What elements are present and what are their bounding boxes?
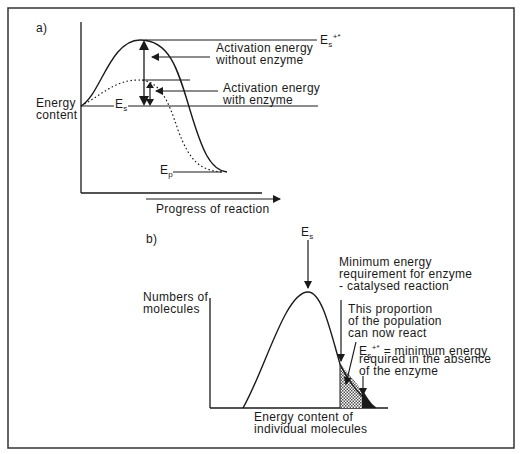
- es-label-b: Es: [301, 226, 314, 243]
- annotation-with-2: with enzyme: [223, 94, 293, 107]
- es-label-a: Es: [115, 98, 128, 115]
- panel-b-label: b): [146, 233, 157, 246]
- catalysed-curve: [81, 80, 222, 172]
- panel-b-y-label-2: molecules: [143, 303, 200, 316]
- es-plus-label: Es+*: [320, 30, 341, 51]
- progress-label: Progress of reaction: [156, 203, 269, 216]
- ep-label: Ep: [160, 164, 173, 181]
- min-energy-3: - catalysed reaction: [339, 280, 449, 293]
- panel-a-label: a): [36, 22, 47, 35]
- outer-frame: [8, 8, 514, 448]
- diagram-canvas: [0, 0, 523, 454]
- annotation-without-2: without enzyme: [216, 54, 304, 67]
- proportion-3: can now react: [348, 327, 427, 340]
- panel-b-x-label-2: individual molecules: [254, 423, 367, 436]
- panel-a-y-label-2: content: [36, 109, 77, 122]
- es-plus-def-3: of the enzyme: [359, 365, 438, 378]
